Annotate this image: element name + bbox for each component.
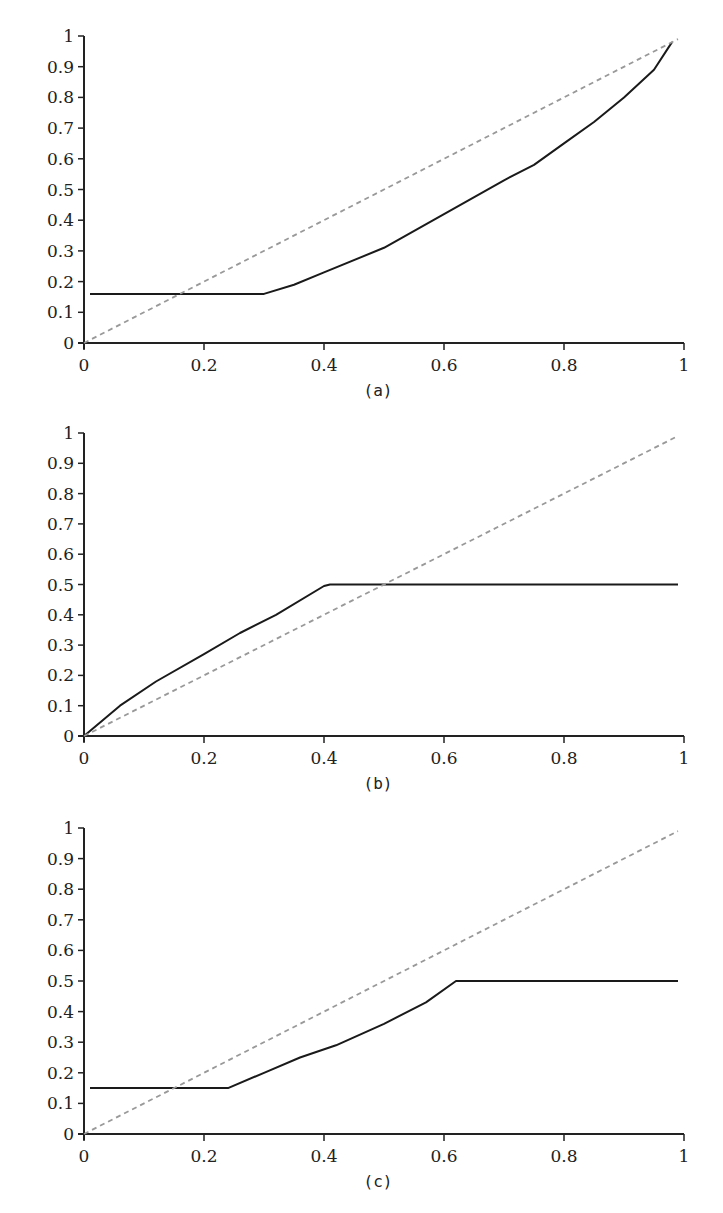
y-tick-label: 1 [63,818,74,838]
y-tick-label: 0.1 [47,1093,74,1113]
y-tick-label: 0.5 [47,971,74,991]
x-tick-label: 0.8 [550,1146,577,1166]
y-tick-label: 0.6 [47,940,74,960]
x-tick-label: 1 [679,1146,690,1166]
chart-caption: (c) [364,1172,393,1191]
x-tick-label: 0.2 [190,1146,217,1166]
x-tick-label: 0.6 [430,1146,457,1166]
x-tick-label: 0.4 [310,1146,337,1166]
y-tick-label: 0.2 [47,1063,74,1083]
series-diagonal [84,831,678,1134]
y-tick-label: 0 [63,1124,74,1144]
y-tick-label: 0.7 [47,910,74,930]
y-tick-label: 0.8 [47,879,74,899]
axes: 00.10.20.30.40.50.60.70.80.9100.20.40.60… [47,818,689,1166]
chart-c: 00.10.20.30.40.50.60.70.80.9100.20.40.60… [0,0,723,1213]
series-curve [90,981,678,1088]
y-tick-label: 0.4 [47,1002,74,1022]
x-tick-label: 0 [79,1146,90,1166]
y-tick-label: 0.3 [47,1032,74,1052]
y-tick-label: 0.9 [47,849,74,869]
